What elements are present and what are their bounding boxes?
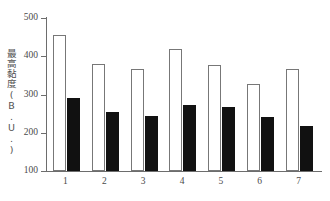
bar-filled — [300, 126, 313, 171]
x-axis-tick-label: 4 — [172, 176, 192, 186]
x-axis-tick-label: 7 — [289, 176, 309, 186]
x-axis-tick-label: 6 — [250, 176, 270, 186]
bar-group — [85, 18, 124, 171]
x-axis-tick-label: 1 — [55, 176, 75, 186]
bar-open — [92, 64, 105, 171]
y-axis-tick-label: 500 — [12, 12, 38, 22]
bar-open — [247, 84, 260, 171]
bar-filled — [106, 112, 119, 171]
y-axis-tick-label: 100 — [12, 165, 38, 175]
x-axis-tick-label: 5 — [211, 176, 231, 186]
y-axis-tick-label: 300 — [12, 89, 38, 99]
bar-filled — [145, 116, 158, 171]
bar-group — [201, 18, 240, 171]
y-axis-tick-label: 400 — [12, 50, 38, 60]
bar-group — [124, 18, 163, 171]
bar-filled — [222, 107, 235, 171]
bar-open — [286, 69, 299, 171]
x-axis-tick-label: 3 — [133, 176, 153, 186]
bar-filled — [183, 105, 196, 171]
plot-area — [46, 18, 318, 171]
bar-open — [208, 65, 221, 171]
y-axis-title: 最高黏度(B.U.) — [2, 44, 16, 160]
bar-open — [169, 49, 182, 171]
x-axis-tick-label: 2 — [94, 176, 114, 186]
y-axis-tick-label: 200 — [12, 127, 38, 137]
x-axis-line — [45, 171, 322, 172]
bar-group — [46, 18, 85, 171]
y-axis-tick-mark — [41, 171, 46, 172]
bar-chart-figure: 最高黏度(B.U.) 100200300400500 1234567 — [0, 0, 330, 201]
bar-filled — [67, 98, 80, 171]
bar-open — [131, 69, 144, 172]
bar-open — [53, 35, 66, 171]
bar-group — [279, 18, 318, 171]
bar-group — [163, 18, 202, 171]
bar-group — [240, 18, 279, 171]
bar-filled — [261, 117, 274, 171]
